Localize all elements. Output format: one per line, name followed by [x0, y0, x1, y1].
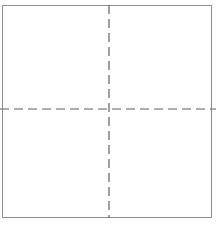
- square-outline: [2, 5, 212, 218]
- quadrant-diagram: [0, 0, 222, 226]
